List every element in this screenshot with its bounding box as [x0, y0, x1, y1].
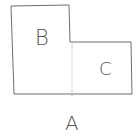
- label-b: B: [35, 28, 49, 49]
- label-c: C: [99, 60, 112, 78]
- l-shape-diagram: B C A: [0, 0, 139, 140]
- label-a: A: [65, 113, 79, 133]
